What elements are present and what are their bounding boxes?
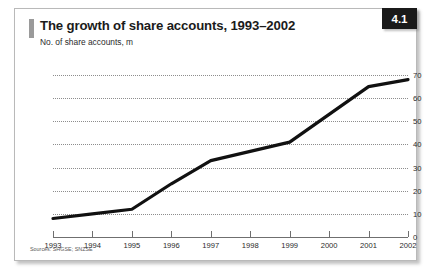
- x-axis-tick: [53, 231, 54, 237]
- x-axis-tick-label: 1998: [242, 241, 259, 250]
- series-line-share-accounts: [53, 80, 408, 219]
- y-axis-tick-label: 20: [413, 186, 421, 195]
- x-axis-tick-label: 1997: [202, 241, 219, 250]
- source-note: Sources: SHGSE; SNZSE: [30, 246, 93, 252]
- y-axis-tick-label: 60: [413, 94, 421, 103]
- title-accent-bar: [29, 19, 34, 38]
- y-axis-tick-label: 50: [413, 117, 421, 126]
- y-axis-tick-label: 70: [413, 71, 421, 80]
- x-axis-tick: [132, 231, 133, 237]
- x-axis-tick: [369, 231, 370, 237]
- x-axis-tick: [92, 231, 93, 237]
- y-axis-tick-label: 40: [413, 140, 421, 149]
- page-title: The growth of share accounts, 1993–2002: [40, 18, 295, 33]
- plot-area: [53, 75, 408, 237]
- x-axis-tick-label: 1996: [163, 241, 180, 250]
- x-axis-tick-label: 2000: [321, 241, 338, 250]
- figure-number-badge: 4.1: [382, 8, 417, 29]
- y-axis-tick-label: 30: [413, 163, 421, 172]
- data-line: [53, 75, 408, 237]
- chart-subtitle: No. of share accounts, m: [40, 37, 133, 47]
- x-axis-tick-label: 1999: [281, 241, 298, 250]
- x-axis-tick: [171, 231, 172, 237]
- y-axis-tick-label: 10: [413, 209, 421, 218]
- x-axis-tick: [211, 231, 212, 237]
- x-axis-tick-label: 2002: [400, 241, 417, 250]
- x-axis-tick: [290, 231, 291, 237]
- x-axis-tick: [250, 231, 251, 237]
- x-axis-tick: [408, 231, 409, 237]
- x-axis-tick: [329, 231, 330, 237]
- x-axis-tick-label: 1995: [123, 241, 140, 250]
- x-axis-tick-label: 2001: [360, 241, 377, 250]
- x-axis-line: [53, 237, 408, 238]
- figure-card: The growth of share accounts, 1993–2002 …: [14, 8, 417, 261]
